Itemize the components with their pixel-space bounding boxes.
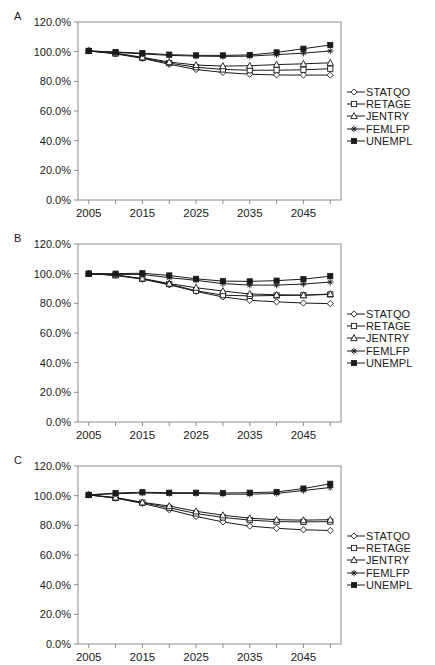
y-tick-label: 20.0% [40,608,71,620]
legend-label: JENTRY [366,554,409,566]
data-point-square-filled [301,486,306,491]
legend-marker-square-filled [346,135,366,147]
data-point-square-filled [193,53,198,58]
figure-container: A 0.0%20.0%40.0%60.0%80.0%100.0%120.0%20… [0,0,435,665]
legend-a: STATQORETAGEJENTRYFEMLFPUNEMPL [346,86,434,147]
data-point-square-filled [167,52,172,57]
legend-item-femlfp[interactable]: FEMLFP [346,123,434,135]
legend-item-femlfp[interactable]: FEMLFP [346,567,434,579]
legend-item-retage[interactable]: RETAGE [346,320,434,332]
legend-label: RETAGE [366,98,411,110]
data-point-square-open [351,546,356,551]
y-tick-label: 120.0% [34,238,72,250]
legend-marker-square-filled [346,357,366,369]
data-point-square-open [328,66,333,71]
data-point-square-filled [328,274,333,279]
data-point-diamond-open [351,311,357,317]
data-point-square-filled [220,278,225,283]
legend-item-jentry[interactable]: JENTRY [346,332,434,344]
legend-item-unempl[interactable]: UNEMPL [346,357,434,369]
legend-marker-diamond-open [346,530,366,542]
legend-marker-square-open [346,542,366,554]
data-point-square-filled [247,279,252,284]
legend-label: UNEMPL [366,357,412,369]
legend-b: STATQORETAGEJENTRYFEMLFPUNEMPL [346,308,434,369]
x-tick-label: 2005 [76,207,102,219]
legend-item-femlfp[interactable]: FEMLFP [346,345,434,357]
x-tick-label: 2005 [76,429,102,441]
y-tick-label: 120.0% [34,460,72,472]
y-tick-label: 100.0% [34,490,72,502]
data-point-square-filled [86,271,91,276]
data-point-square-filled [167,273,172,278]
data-point-asterisk [351,347,357,353]
x-tick-label: 2045 [291,429,317,441]
data-point-square-filled [247,490,252,495]
y-tick-label: 40.0% [40,357,71,369]
y-tick-label: 80.0% [40,75,71,87]
legend-label: FEMLFP [366,123,410,135]
legend-item-retage[interactable]: RETAGE [346,542,434,554]
data-point-square-filled [274,489,279,494]
legend-item-retage[interactable]: RETAGE [346,98,434,110]
x-tick-label: 2045 [291,207,317,219]
legend-marker-square-open [346,320,366,332]
legend-marker-asterisk [346,123,366,135]
legend-label: JENTRY [366,332,409,344]
legend-item-jentry[interactable]: JENTRY [346,110,434,122]
y-tick-label: 120.0% [34,16,72,28]
y-tick-label: 60.0% [40,549,71,561]
x-tick-label: 2015 [130,207,156,219]
data-point-square-filled [113,490,118,495]
legend-label: STATQO [366,530,410,542]
y-tick-label: 0.0% [46,416,71,428]
legend-item-statqo[interactable]: STATQO [346,530,434,542]
legend-label: FEMLFP [366,567,410,579]
legend-item-statqo[interactable]: STATQO [346,308,434,320]
y-tick-label: 100.0% [34,268,72,280]
data-point-square-filled [220,53,225,58]
data-point-square-filled [274,50,279,55]
data-point-square-open [274,68,279,73]
chart-panel-a: A 0.0%20.0%40.0%60.0%80.0%100.0%120.0%20… [0,0,435,221]
chart-panel-b: B 0.0%20.0%40.0%60.0%80.0%100.0%120.0%20… [0,222,435,443]
data-point-square-filled [86,48,91,53]
data-point-square-filled [328,42,333,47]
data-point-square-filled [167,490,172,495]
data-point-square-filled [86,492,91,497]
y-tick-label: 80.0% [40,297,71,309]
chart-panel-c: C 0.0%20.0%40.0%60.0%80.0%100.0%120.0%20… [0,444,435,665]
y-tick-label: 100.0% [34,46,72,58]
data-point-asterisk [351,569,357,575]
y-tick-label: 0.0% [46,638,71,650]
legend-c: STATQORETAGEJENTRYFEMLFPUNEMPL [346,530,434,591]
data-point-square-filled [247,52,252,57]
data-point-square-filled [301,46,306,51]
data-point-square-filled [328,481,333,486]
data-point-square-filled [193,490,198,495]
data-point-square-filled [113,271,118,276]
y-tick-label: 20.0% [40,386,71,398]
legend-item-jentry[interactable]: JENTRY [346,554,434,566]
data-point-square-filled [140,271,145,276]
figure-caption-strip [0,656,435,665]
x-tick-label: 2035 [237,429,263,441]
legend-item-statqo[interactable]: STATQO [346,86,434,98]
legend-item-unempl[interactable]: UNEMPL [346,135,434,147]
data-point-square-filled [140,51,145,56]
x-tick-label: 2025 [183,429,209,441]
legend-label: RETAGE [366,320,411,332]
legend-marker-triangle-open [346,554,366,566]
data-point-square-open [351,102,356,107]
legend-marker-square-filled [346,579,366,591]
x-tick-label: 2025 [183,207,209,219]
legend-marker-asterisk [346,345,366,357]
data-point-square-filled [140,490,145,495]
legend-label: JENTRY [366,110,409,122]
legend-marker-asterisk [346,567,366,579]
data-point-square-filled [193,276,198,281]
legend-item-unempl[interactable]: UNEMPL [346,579,434,591]
data-point-square-filled [301,277,306,282]
y-tick-label: 60.0% [40,105,71,117]
data-point-diamond-open [351,533,357,539]
